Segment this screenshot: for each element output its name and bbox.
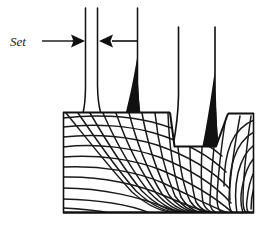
saw-set-figure: Set — [0, 0, 265, 225]
set-label: Set — [10, 34, 26, 49]
figure-canvas: Set — [0, 0, 265, 225]
